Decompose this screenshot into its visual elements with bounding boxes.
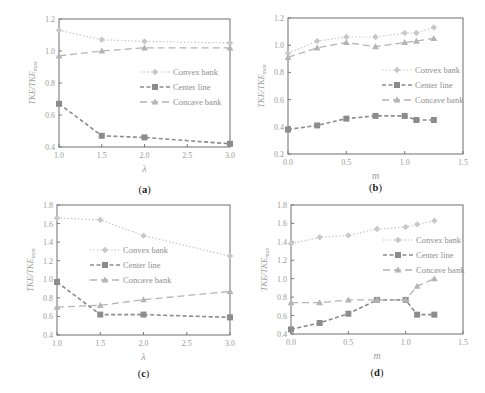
y-tick-label: 1.8 <box>277 201 287 210</box>
data-point-marker <box>343 116 349 122</box>
data-point-marker <box>414 312 420 318</box>
data-point-marker <box>316 234 322 240</box>
data-point-marker <box>373 113 379 119</box>
legend-label: Convex bank <box>415 65 461 75</box>
data-point-marker <box>97 217 103 223</box>
data-point-marker <box>99 133 105 139</box>
legend-item: Center line <box>140 82 211 92</box>
chart-canvas: 0.40.60.81.01.21.01.52.02.53.0λTKE/TKEma… <box>0 0 485 393</box>
legend-item: Center line <box>382 80 453 90</box>
data-point-marker <box>431 275 438 281</box>
data-point-marker <box>227 288 234 294</box>
data-point-marker <box>414 221 420 227</box>
y-tick-label: 1.2 <box>45 15 55 24</box>
data-point-marker <box>141 312 147 318</box>
legend-label: Convex bank <box>123 245 169 255</box>
y-axis-label: TKE/TKEmax <box>256 64 267 108</box>
x-tick-label: 1.0 <box>401 338 411 347</box>
y-axis-label: TKE/TKEmax <box>27 61 38 105</box>
x-tick-label: 1.5 <box>458 338 468 347</box>
data-point-marker <box>430 35 437 41</box>
data-point-marker <box>141 38 147 44</box>
legend-item: Convex bank <box>383 235 462 245</box>
y-tick-label: 1.2 <box>277 256 287 265</box>
series-center-line <box>285 113 437 133</box>
series-concave-bank <box>285 35 438 60</box>
data-point-marker <box>402 224 408 230</box>
panel-caption: (d) <box>371 367 384 379</box>
series-convex-bank <box>285 24 437 56</box>
chart-panel-c: 0.40.60.81.01.21.41.61.81.01.52.02.53.0λ… <box>25 201 235 380</box>
data-point-marker <box>345 232 351 238</box>
data-point-marker <box>413 117 419 123</box>
x-tick-label: 1.5 <box>95 339 105 348</box>
data-point-marker <box>413 30 419 36</box>
panel-caption: (b) <box>369 182 382 194</box>
legend-label: Convex bank <box>416 235 462 245</box>
y-tick-label: 1.4 <box>277 238 287 247</box>
x-tick-label: 1.0 <box>52 339 62 348</box>
series-center-line <box>288 297 437 332</box>
legend-marker <box>394 67 400 73</box>
x-axis-ticks: 0.00.51.01.5 <box>286 331 468 347</box>
series-center-line <box>56 101 233 147</box>
legend-item: Center line <box>90 260 161 270</box>
legend-item: Concave bank <box>382 95 464 105</box>
legend-item: Convex bank <box>140 67 219 77</box>
data-point-marker <box>288 326 294 332</box>
x-axis-ticks: 0.00.51.01.5 <box>283 151 468 167</box>
y-tick-label: 0.4 <box>274 123 284 132</box>
data-point-marker <box>227 253 233 259</box>
series-line <box>288 116 434 130</box>
legend: Convex bankCenter lineConcave bank <box>382 65 464 105</box>
y-tick-label: 0.6 <box>277 312 287 321</box>
y-tick-label: 0.8 <box>277 293 287 302</box>
x-tick-label: 2.0 <box>140 151 150 160</box>
data-point-marker <box>54 279 60 285</box>
y-tick-label: 1.0 <box>274 41 284 50</box>
x-tick-label: 2.5 <box>182 339 192 348</box>
legend-label: Center line <box>173 82 211 92</box>
y-tick-label: 1.0 <box>277 275 287 284</box>
x-axis-label: m <box>372 170 379 181</box>
data-point-marker <box>227 314 233 320</box>
data-point-marker <box>372 34 378 40</box>
y-tick-label: 0.6 <box>43 312 53 321</box>
series-concave-bank <box>288 275 438 305</box>
legend: Convex bankCenter lineConcave bank <box>140 67 222 107</box>
x-tick-label: 0.0 <box>283 158 293 167</box>
x-tick-label: 1.0 <box>400 158 410 167</box>
chart-panel-a: 0.40.60.81.01.21.01.52.02.53.0λTKE/TKEma… <box>27 15 235 196</box>
legend-label: Convex bank <box>173 67 219 77</box>
series-line <box>291 300 434 330</box>
panel-caption: (a) <box>138 184 151 196</box>
series-line <box>291 221 434 244</box>
data-point-marker <box>56 101 62 107</box>
data-point-marker <box>97 312 103 318</box>
legend-label: Concave bank <box>173 97 222 107</box>
x-tick-label: 2.0 <box>139 339 149 348</box>
y-tick-label: 1.8 <box>43 201 53 210</box>
data-point-marker <box>431 217 437 223</box>
chart-panel-b: 0.20.40.60.81.01.20.00.51.01.5mTKE/TKEma… <box>256 14 468 194</box>
x-tick-label: 3.0 <box>225 339 235 348</box>
data-point-marker <box>142 134 148 140</box>
legend-marker <box>152 69 158 75</box>
data-point-marker <box>343 39 350 45</box>
data-point-marker <box>402 113 408 119</box>
data-point-marker <box>99 37 105 43</box>
series-line <box>288 28 434 54</box>
y-tick-label: 0.8 <box>43 294 53 303</box>
legend: Convex bankCenter lineConcave bank <box>383 235 465 275</box>
series-concave-bank <box>56 44 234 58</box>
legend-marker <box>395 237 401 243</box>
data-point-marker <box>431 24 437 30</box>
legend-marker <box>102 247 108 253</box>
series-convex-bank <box>56 27 233 46</box>
panel-caption: (c) <box>138 368 150 380</box>
legend-label: Concave bank <box>416 265 465 275</box>
y-tick-label: 0.6 <box>274 96 284 105</box>
legend-label: Center line <box>123 260 161 270</box>
legend-label: Center line <box>416 250 454 260</box>
legend-item: Concave bank <box>90 275 172 285</box>
